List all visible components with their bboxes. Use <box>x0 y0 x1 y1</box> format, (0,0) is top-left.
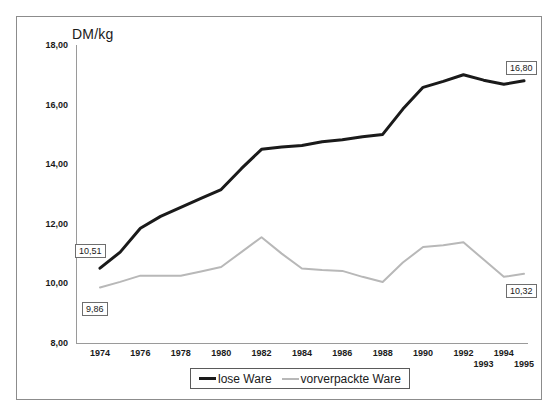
legend-item-label: lose Ware <box>218 372 272 386</box>
x-tick-1976: 1976 <box>120 348 160 358</box>
y-tick-16: 16,00 <box>22 100 68 110</box>
x-tick-1994: 1994 <box>484 348 524 358</box>
line-lose-ware <box>100 75 524 268</box>
legend-swatch-line-icon <box>199 377 216 380</box>
label-lose-1995: 16,80 <box>506 61 537 75</box>
x-tick-1986: 1986 <box>322 348 362 358</box>
legend-item-vorverpackte-ware[interactable]: vorverpackte Ware <box>282 372 401 386</box>
legend-item-lose-ware[interactable]: lose Ware <box>199 372 272 386</box>
y-tick-18: 18,00 <box>22 40 68 50</box>
label-lose-1974: 10,51 <box>75 244 106 258</box>
legend-item-label: vorverpackte Ware <box>301 372 401 386</box>
x-tick-1978: 1978 <box>161 348 201 358</box>
x-tick-1995: 1995 <box>504 359 544 369</box>
x-tick-1984: 1984 <box>282 348 322 358</box>
y-tick-14: 14,00 <box>22 159 68 169</box>
y-tick-12: 12,00 <box>22 219 68 229</box>
x-tick-1993: 1993 <box>464 359 504 369</box>
y-tick-10: 10,00 <box>22 278 68 288</box>
chart-screenshot: DM/kg 18,0016,0014,0012,0010,008,00 1974… <box>0 0 558 416</box>
y-axis-title: DM/kg <box>72 26 113 42</box>
x-axis-line <box>76 343 528 344</box>
x-tick-1974: 1974 <box>80 348 120 358</box>
plot-area <box>76 45 527 343</box>
legend-swatch-line-icon <box>282 378 299 380</box>
x-tick-1980: 1980 <box>201 348 241 358</box>
series-lines <box>76 45 527 343</box>
y-tick-8: 8,00 <box>22 338 68 348</box>
line-vorverpackte-ware <box>100 237 524 287</box>
x-tick-1988: 1988 <box>363 348 403 358</box>
x-tick-1990: 1990 <box>403 348 443 358</box>
label-vorverpackt-1995: 10,32 <box>506 284 537 298</box>
legend: lose Warevorverpackte Ware <box>190 368 410 389</box>
label-vorverpackt-1974: 9,86 <box>82 302 108 316</box>
x-tick-1982: 1982 <box>242 348 282 358</box>
x-tick-1992: 1992 <box>443 348 483 358</box>
